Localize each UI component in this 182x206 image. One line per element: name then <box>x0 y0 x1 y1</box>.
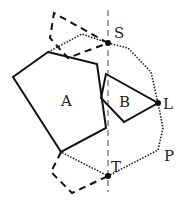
label-b: B <box>119 93 130 111</box>
dashed-upper-shape <box>50 13 108 58</box>
point-s <box>105 40 111 46</box>
label-t: T <box>111 158 121 176</box>
point-l <box>155 100 161 106</box>
label-s: S <box>114 24 124 42</box>
label-a: A <box>60 92 72 110</box>
label-p: P <box>164 147 174 165</box>
label-l: L <box>163 95 173 113</box>
diagram-svg: A B S T L P <box>0 0 182 206</box>
polygon-a <box>13 52 106 152</box>
diagram-canvas: A B S T L P <box>0 0 182 206</box>
